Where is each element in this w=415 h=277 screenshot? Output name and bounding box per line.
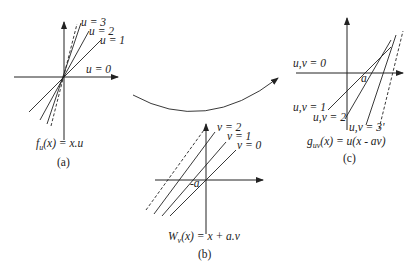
label-u0: u = 0 xyxy=(86,63,111,75)
composition-arrow-icon xyxy=(133,78,278,111)
line-u1 xyxy=(29,40,101,112)
line-uv3 xyxy=(366,35,396,125)
label-uv0: u,v = 0 xyxy=(293,57,326,70)
formula-a: fu(x) = x.u xyxy=(36,137,83,152)
label-a: a xyxy=(361,72,367,84)
caption-c: (c) xyxy=(343,152,356,165)
function-composition-diagram: u = 3 u = 2 u = 1 u = 0 fu(x) = x.u (a) … xyxy=(0,0,415,277)
panel-a: u = 3 u = 2 u = 1 u = 0 fu(x) = x.u (a) xyxy=(14,16,125,169)
line-v-dashed xyxy=(146,130,204,210)
label-uv3: u,v = 3' xyxy=(349,121,385,134)
caption-b: (b) xyxy=(198,248,212,261)
label-v0: v = 0 xyxy=(237,139,262,151)
caption-a: (a) xyxy=(57,156,70,169)
label-minus-a: -a xyxy=(190,177,200,189)
line-uv-dashed xyxy=(379,31,403,129)
label-uv2: u,v = 2 xyxy=(313,111,346,124)
panel-b: v = 2 v = 1 v = 0 -a Wv(x) = x + a.v (b) xyxy=(146,121,263,261)
line-v0 xyxy=(170,150,236,216)
formula-b: Wv(x) = x + a.v xyxy=(168,230,241,245)
formula-c: guv(x) = u(x - av) xyxy=(307,135,386,150)
panel-c: u,v = 0 u,v = 1 u,v = 2 u,v = 3' a guv(x… xyxy=(293,18,403,165)
label-u1: u = 1 xyxy=(100,34,125,46)
